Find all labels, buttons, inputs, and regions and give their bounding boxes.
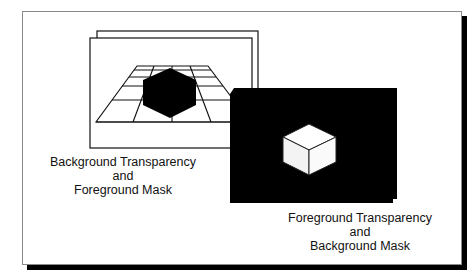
left-caption-line-2: and bbox=[28, 169, 218, 183]
left-caption-line-1: Background Transparency bbox=[28, 155, 218, 169]
right-caption-line-3: Background Mask bbox=[275, 239, 445, 253]
right-caption-line-1: Foreground Transparency bbox=[275, 211, 445, 225]
left-caption: Background Transparency and Foreground M… bbox=[28, 155, 218, 197]
right-caption-line-2: and bbox=[275, 225, 445, 239]
left-caption-line-3: Foreground Mask bbox=[28, 183, 218, 197]
right-caption: Foreground Transparency and Background M… bbox=[275, 211, 445, 253]
